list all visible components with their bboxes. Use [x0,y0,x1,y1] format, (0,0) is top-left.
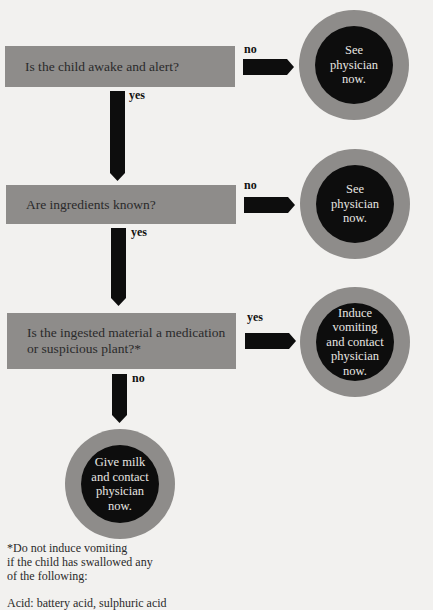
outcome-circle-2: Seephysiciannow. [300,149,410,259]
down-arrow-icon [111,228,126,306]
down-arrow-icon [112,374,127,423]
footnote: *Do not induce vomiting if the child has… [7,541,267,610]
question-box-3: Is the ingested material a medication or… [7,313,236,369]
down-arrow-icon [110,91,125,181]
question-text-2: Are ingredients known? [26,197,156,213]
outcome-circle-4: Give milkand contactphysiciannow. [65,429,175,539]
footnote-line: if the child has swallowed any [7,555,267,569]
branch-label-q1-no: no [244,42,257,57]
outcome-circle-1: Seephysiciannow. [299,10,409,120]
right-arrow-icon [243,59,294,75]
branch-label-q1-yes: yes [129,88,145,103]
right-arrow-icon [245,333,296,349]
right-arrow-icon [244,197,295,213]
footnote-line: of the following: [7,569,267,583]
outcome-text-3: Inducevomitingand contactphysiciannow. [316,303,394,381]
question-box-2: Are ingredients known? [6,185,236,224]
outcome-circle-3: Inducevomitingand contactphysiciannow. [300,287,410,397]
outcome-text-2: Seephysiciannow. [316,165,394,243]
branch-label-q3-yes: yes [247,310,263,325]
footnote-line: *Do not induce vomiting [7,541,267,555]
question-box-1: Is the child awake and alert? [5,46,235,87]
outcome-text-1: Seephysiciannow. [315,26,393,104]
question-text-3: Is the ingested material a medication or… [27,325,227,357]
branch-label-q2-yes: yes [131,225,147,240]
branch-label-q2-no: no [244,178,257,193]
footnote-clipped-line: Acid: battery acid, sulphuric acid [7,596,267,610]
question-text-1: Is the child awake and alert? [25,59,179,75]
branch-label-q3-no: no [132,371,145,386]
outcome-text-4: Give milkand contactphysiciannow. [81,445,159,523]
